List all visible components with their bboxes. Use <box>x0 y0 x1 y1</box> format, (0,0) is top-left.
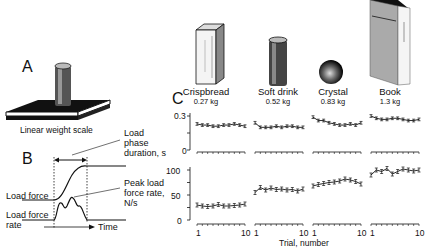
panel-c-plots <box>0 0 429 249</box>
